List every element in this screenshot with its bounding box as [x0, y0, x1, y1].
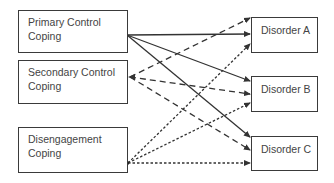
node-label: Disorder A [261, 23, 317, 37]
node-disengagement-coping: Disengagement Coping [18, 127, 128, 173]
node-label-line1: Disengagement [28, 132, 127, 146]
edge-secondary-to-disorder-b [130, 77, 250, 94]
node-label-line1: Primary Control [28, 15, 127, 29]
node-disorder-b: Disorder B [251, 76, 318, 112]
edge-disengagement-to-disorder-a [128, 44, 250, 163]
node-label: Disorder C [261, 142, 317, 156]
node-disorder-a: Disorder A [251, 17, 318, 53]
edge-primary-to-disorder-c [127, 35, 250, 137]
node-primary-control-coping: Primary Control Coping [18, 10, 128, 53]
node-label-line1: Secondary Control [28, 65, 127, 79]
node-label: Disorder B [261, 82, 317, 96]
node-secondary-control-coping: Secondary Control Coping [18, 60, 128, 104]
node-label-line2: Coping [28, 29, 127, 43]
node-label-line2: Coping [28, 146, 127, 160]
edge-secondary-to-disorder-a [130, 18, 250, 77]
coping-disorder-diagram: Primary Control Coping Secondary Control… [0, 0, 334, 183]
edge-disengagement-to-disorder-b [128, 103, 250, 163]
edge-primary-to-disorder-a [127, 34, 250, 35]
node-disorder-c: Disorder C [251, 136, 318, 171]
edge-primary-to-disorder-b [127, 35, 250, 81]
arrowhead-into-secondary [128, 74, 135, 80]
node-label-line2: Coping [28, 79, 127, 93]
